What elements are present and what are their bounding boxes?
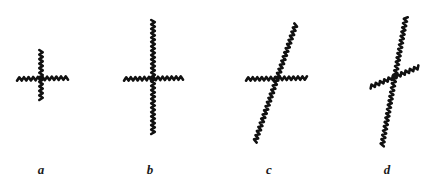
figure-panel-b: [124, 20, 183, 134]
panel-label-c: c: [266, 163, 272, 176]
figure-panel-d: [371, 17, 419, 146]
figure-canvas: [0, 0, 437, 184]
figure-panel-c: [246, 23, 307, 142]
panel-label-d: d: [384, 163, 391, 176]
panel-label-a: a: [38, 163, 45, 176]
figure-panel-a: [17, 50, 68, 100]
c-tilted-stroke: [254, 23, 297, 142]
a-vertical-stroke: [39, 50, 42, 100]
figure-container: abcd: [0, 0, 437, 184]
panel-label-b: b: [147, 163, 154, 176]
